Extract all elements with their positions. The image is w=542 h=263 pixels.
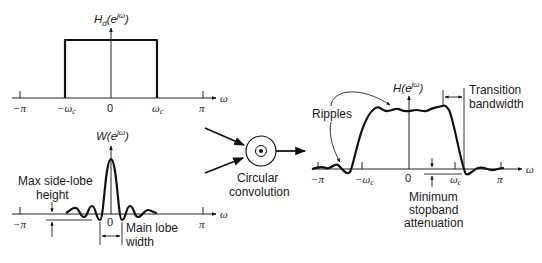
h-title: H(ejω) <box>393 80 424 94</box>
input-arrow-top <box>205 128 244 145</box>
result-response-panel: H(ejω) ω −π −ωc 0 ωc π Ripples Transitio… <box>311 80 534 230</box>
tick-label-wc: ωc <box>450 173 462 187</box>
ideal-response-panel: Hd(ejω) ω −π −ωc 0 ωc π <box>12 11 228 116</box>
transition-label-line2: bandwidth <box>469 97 524 111</box>
ripples-label: Ripples <box>312 107 352 121</box>
sidelobe-label-line1: Max side-lobe <box>18 174 93 188</box>
tick-label-zero: 0 <box>107 216 113 228</box>
tick-label-minus-pi: −π <box>13 218 26 230</box>
tick-label-zero: 0 <box>405 172 411 184</box>
omega-label: ω <box>220 208 228 220</box>
mainlobe-label-line2: width <box>125 235 154 249</box>
ripples-arrow-passband <box>331 92 390 106</box>
tick-label-pi: π <box>199 218 205 230</box>
fir-window-design-diagram: Hd(ejω) ω −π −ωc 0 ωc π W(ejω) ω −π 0 π … <box>0 0 542 263</box>
mainlobe-label-line1: Main lobe <box>126 221 178 235</box>
tick-label-zero: 0 <box>107 102 113 114</box>
tick-label-minus-pi: −π <box>13 102 26 114</box>
tick-label-minus-pi: −π <box>311 173 324 185</box>
tick-label-minus-wc: −ωc <box>355 173 374 187</box>
stopband-label-line1: Minimum <box>409 190 458 204</box>
window-spectrum-panel: W(ejω) ω −π 0 π Max side-lobe height Mai… <box>12 128 228 249</box>
w-title: W(ejω) <box>96 128 129 142</box>
tick-label-minus-wc: −ωc <box>57 102 76 116</box>
hd-title: Hd(ejω) <box>94 11 129 28</box>
tick-label-pi: π <box>199 102 205 114</box>
stopband-label-line3: attenuation <box>404 216 463 230</box>
circular-convolution-block: Circular convolution <box>205 128 305 199</box>
sidelobe-label-line2: height <box>36 188 69 202</box>
omega-label: ω <box>220 92 228 104</box>
stopband-label-line2: stopband <box>409 203 458 217</box>
transition-label-line1: Transition <box>469 83 521 97</box>
tick-label-pi: π <box>497 173 503 185</box>
convolution-label-line1: Circular <box>237 171 278 185</box>
ripples-arrow-stopband <box>330 122 340 162</box>
tick-label-wc: ωc <box>152 102 164 116</box>
convolution-operator-dot <box>259 149 263 153</box>
omega-label: ω <box>526 163 534 175</box>
convolution-label-line2: convolution <box>229 185 290 199</box>
